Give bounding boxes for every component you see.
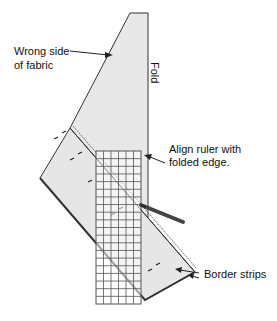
arrow-align — [150, 157, 165, 163]
arrow-wrong-side — [70, 51, 108, 55]
label-align-1: Align ruler with — [169, 143, 241, 155]
label-align-2: folded edge. — [169, 156, 230, 168]
ruler — [96, 151, 141, 304]
label-wrong-side-1: Wrong side — [14, 45, 69, 57]
label-border-strips: Border strips — [204, 268, 267, 280]
quilting-diagram: Wrong side of fabric Fold Align ruler wi… — [0, 0, 277, 321]
label-wrong-side-2: of fabric — [14, 59, 54, 71]
label-fold: Fold — [149, 62, 161, 83]
